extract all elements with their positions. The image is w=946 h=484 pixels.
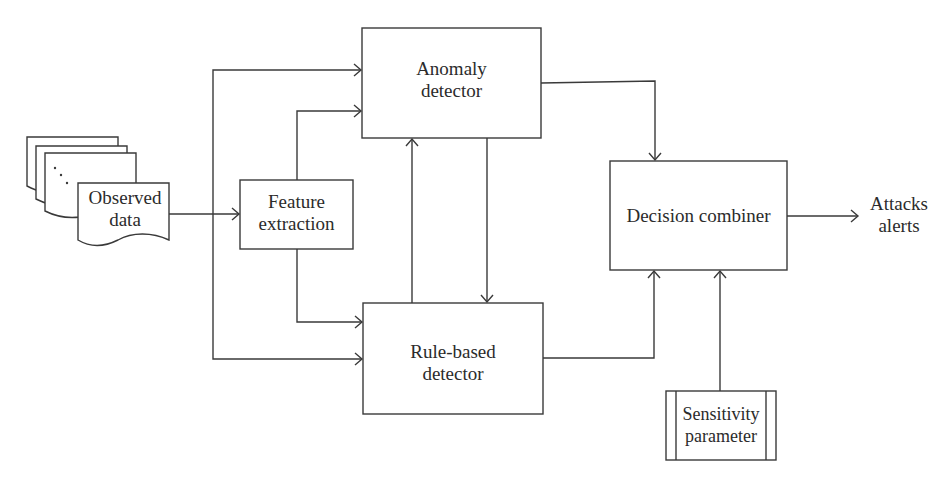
rule-based-detector-line1: Rule-based (363, 341, 543, 363)
anomaly-detector-label: Anomaly detector (362, 58, 541, 102)
observed-data-line1: Observed (82, 187, 168, 209)
sensitivity-parameter-line2: parameter (676, 425, 766, 447)
attacks-alerts-line2: alerts (864, 215, 934, 237)
feature-extraction-label: Feature extraction (240, 191, 353, 235)
ellipsis-dot (54, 167, 56, 169)
observed-data-label: Observed data (82, 187, 168, 231)
decision-combiner-label: Decision combiner (610, 205, 787, 227)
attacks-alerts-label: Attacks alerts (864, 193, 934, 237)
observed-data-line2: data (82, 209, 168, 231)
anomaly-detector-line1: Anomaly (362, 58, 541, 80)
rule-based-detector-line2: detector (363, 363, 543, 385)
ellipsis-dot (66, 182, 68, 184)
sensitivity-parameter-line1: Sensitivity (676, 403, 766, 425)
attacks-alerts-line1: Attacks (864, 193, 934, 215)
sensitivity-parameter-label: Sensitivity parameter (676, 403, 766, 447)
feature-extraction-line1: Feature (240, 191, 353, 213)
rule-based-detector-label: Rule-based detector (363, 341, 543, 385)
feature-extraction-line2: extraction (240, 213, 353, 235)
decision-combiner-line1: Decision combiner (610, 205, 787, 227)
ellipsis-dot (60, 174, 62, 176)
anomaly-detector-line2: detector (362, 80, 541, 102)
